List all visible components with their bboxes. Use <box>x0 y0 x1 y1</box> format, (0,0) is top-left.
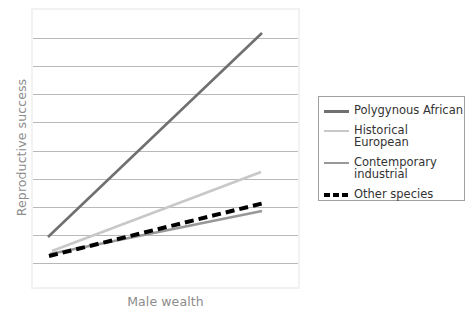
plot-area <box>31 8 300 289</box>
gridline <box>33 179 298 180</box>
gridlines <box>33 10 298 287</box>
gridline <box>33 263 298 264</box>
chart-figure: Reproductive success Male wealth Polygyn… <box>0 0 471 326</box>
gridline <box>33 151 298 152</box>
legend-dash-segment <box>342 193 348 197</box>
gridline <box>33 207 298 208</box>
legend-item[interactable]: Other species <box>319 188 464 201</box>
gridline <box>33 235 298 236</box>
legend-line-icon <box>324 157 349 169</box>
y-axis-title: Reproductive success <box>14 48 29 248</box>
legend-line-segment <box>324 162 349 165</box>
legend-line-icon <box>324 125 349 137</box>
gridline <box>33 94 298 95</box>
legend-dash-segment <box>324 193 330 197</box>
legend-item-label: Other species <box>354 188 433 201</box>
legend-item-label: Contemporary industrial <box>354 156 437 181</box>
legend-line-segment <box>324 110 349 113</box>
x-axis-title: Male wealth <box>31 294 300 309</box>
legend-item[interactable]: Contemporary industrial <box>319 156 464 181</box>
gridline <box>33 66 298 67</box>
legend-item-label: Historical European <box>354 124 464 149</box>
chart-legend: Polygynous AfricanHistorical EuropeanCon… <box>318 96 465 201</box>
legend-line-icon <box>324 105 349 117</box>
legend-item[interactable]: Polygynous African <box>319 104 464 117</box>
gridline <box>33 38 298 39</box>
legend-line-icon <box>324 189 349 201</box>
legend-item[interactable]: Historical European <box>319 124 464 149</box>
legend-line-segment <box>324 130 349 133</box>
legend-dash-segment <box>333 193 339 197</box>
gridline <box>33 122 298 123</box>
legend-item-label: Polygynous African <box>354 104 463 117</box>
